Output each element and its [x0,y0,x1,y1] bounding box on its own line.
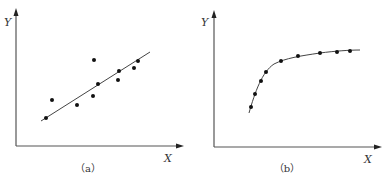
caption-a: （a） [75,163,101,174]
data-point [279,59,283,63]
data-point [44,116,48,120]
data-point [335,50,339,54]
y-axis-label-a: Y [4,16,13,29]
panel-a: Y X （a） [4,8,184,174]
data-point [136,59,140,63]
fit-line-a [41,52,150,121]
panel-b: Y X （b） [201,10,382,174]
data-point [91,94,95,98]
data-point [253,92,257,96]
x-axis-label-a: X [163,152,173,165]
y-axis-arrow-a [14,8,19,16]
figure: Y X （a） Y X （b） [0,0,387,183]
x-axis-arrow-b [374,145,382,150]
y-axis-arrow-b [212,10,217,18]
data-point [259,79,263,83]
data-point [117,69,121,73]
data-point [132,66,136,70]
data-point [92,58,96,62]
data-point [348,49,352,53]
caption-b: （b） [274,163,300,174]
data-point [116,78,120,82]
data-point [50,98,54,102]
data-point [318,51,322,55]
data-point [264,70,268,74]
data-point [75,103,79,107]
fit-curve-b [249,50,360,113]
data-point [249,105,253,109]
data-point [96,82,100,86]
data-point [296,54,300,58]
x-axis-label-b: X [363,153,373,166]
y-axis-label-b: Y [201,16,210,29]
x-axis-arrow-a [176,144,184,149]
points-b [249,49,352,109]
